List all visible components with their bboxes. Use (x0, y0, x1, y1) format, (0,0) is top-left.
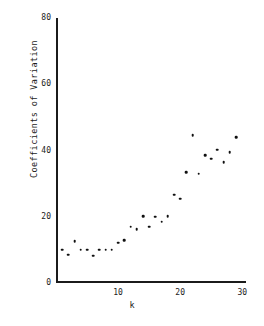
x-tick-label-20: 20 (169, 289, 191, 297)
data-point (229, 151, 232, 154)
y-tick-label-80: 80 (29, 14, 51, 22)
y-tick-label-60: 60 (29, 80, 51, 88)
data-point (191, 134, 194, 137)
data-point (98, 249, 101, 252)
data-point (210, 157, 213, 160)
y-tick-label-0: 0 (29, 279, 51, 287)
y-axis-title: Coefficients of Variation (29, 29, 39, 189)
data-point (123, 239, 126, 242)
data-point (160, 220, 163, 223)
y-tick-label-20: 20 (29, 213, 51, 221)
x-tick-label-10: 10 (107, 289, 129, 297)
data-point (204, 154, 207, 157)
data-point (117, 241, 120, 244)
plot-area: 020406080 102030 (56, 18, 246, 283)
data-point (154, 215, 157, 218)
data-point (142, 215, 145, 218)
data-point (166, 215, 169, 218)
data-point (67, 253, 70, 256)
data-point (86, 249, 89, 252)
data-point (235, 136, 238, 139)
y-tick-label-40: 40 (29, 147, 51, 155)
x-axis-title: k (0, 300, 264, 310)
data-point (80, 249, 83, 252)
data-point (135, 228, 138, 231)
x-axis-line (56, 281, 246, 283)
data-point (148, 225, 151, 228)
data-point (73, 240, 76, 243)
data-point (61, 249, 64, 252)
x-tick-label-30: 30 (231, 289, 253, 297)
data-point (173, 193, 176, 196)
data-point (185, 171, 188, 174)
data-point (179, 197, 182, 200)
data-point (92, 255, 95, 258)
data-point (129, 225, 132, 228)
scatter-plot-figure: Coefficients of Variation 020406080 1020… (0, 0, 264, 326)
data-point (104, 249, 107, 252)
data-point (222, 161, 225, 164)
y-axis-line (56, 18, 58, 283)
data-point (216, 149, 219, 152)
data-point (111, 249, 114, 252)
data-point (198, 172, 201, 175)
